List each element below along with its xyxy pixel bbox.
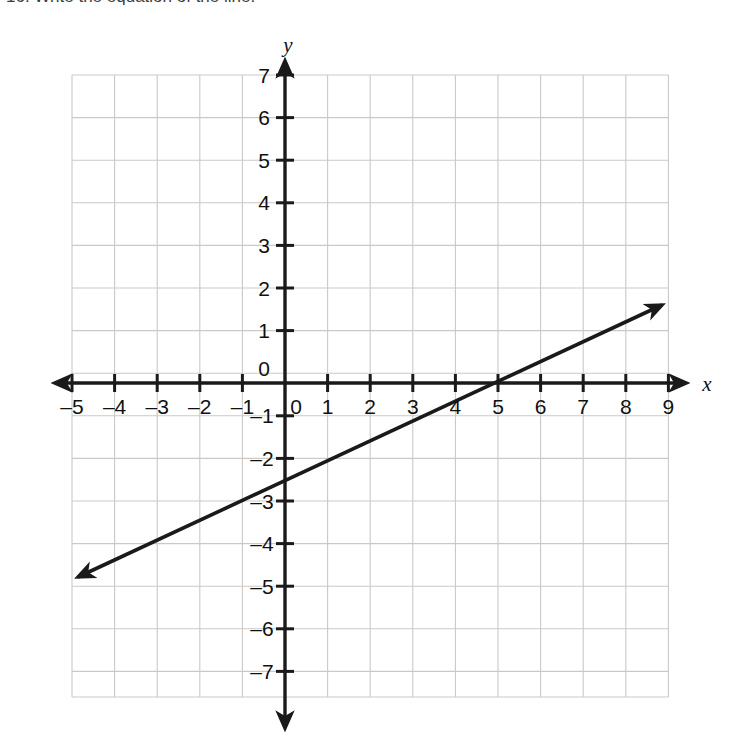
problem-heading: 16. Write the equation of the line. bbox=[6, 0, 255, 7]
y-tick-label--3: –3 bbox=[250, 490, 273, 513]
y-tick-label--4: –4 bbox=[250, 532, 274, 555]
x-tick-label-3: 3 bbox=[407, 395, 419, 418]
x-tick-label-4: 4 bbox=[450, 395, 462, 418]
y-tick-label-6: 6 bbox=[258, 106, 270, 129]
y-tick-label-7: 7 bbox=[258, 64, 270, 87]
x-tick-label-8: 8 bbox=[620, 395, 632, 418]
x-axis-label: x bbox=[701, 372, 712, 396]
y-axis-label: y bbox=[281, 33, 293, 57]
y-tick-label--7: –7 bbox=[250, 660, 273, 683]
y-origin-label: 0 bbox=[258, 357, 270, 380]
y-tick-label-4: 4 bbox=[258, 191, 270, 214]
y-tick-label-1: 1 bbox=[258, 319, 270, 342]
x-tick-label-9: 9 bbox=[663, 395, 675, 418]
x-tick-label-6: 6 bbox=[535, 395, 547, 418]
y-tick-label-5: 5 bbox=[258, 149, 270, 172]
x-tick-label-2: 2 bbox=[364, 395, 376, 418]
y-tick-label--5: –5 bbox=[250, 575, 273, 598]
x-tick-label--4: –4 bbox=[103, 395, 127, 418]
y-tick-label--6: –6 bbox=[250, 617, 273, 640]
x-tick-label--5: –5 bbox=[60, 395, 83, 418]
y-tick-label-3: 3 bbox=[258, 234, 270, 257]
x-origin-label: 0 bbox=[290, 395, 302, 418]
coordinate-plane: –5 –4 –3 –2 –1 0 1 2 3 4 5 6 7 8 9 7 6 5… bbox=[0, 14, 740, 750]
x-tick-label-7: 7 bbox=[577, 395, 589, 418]
y-tick-label--2: –2 bbox=[250, 447, 273, 470]
y-tick-label--1: –1 bbox=[250, 404, 273, 427]
x-tick-label-1: 1 bbox=[322, 395, 334, 418]
x-tick-label-5: 5 bbox=[492, 395, 504, 418]
y-tick-label-2: 2 bbox=[258, 277, 270, 300]
x-tick-label--2: –2 bbox=[188, 395, 211, 418]
coordinate-graph-figure: –5 –4 –3 –2 –1 0 1 2 3 4 5 6 7 8 9 7 6 5… bbox=[0, 14, 740, 750]
x-tick-label--3: –3 bbox=[146, 395, 169, 418]
